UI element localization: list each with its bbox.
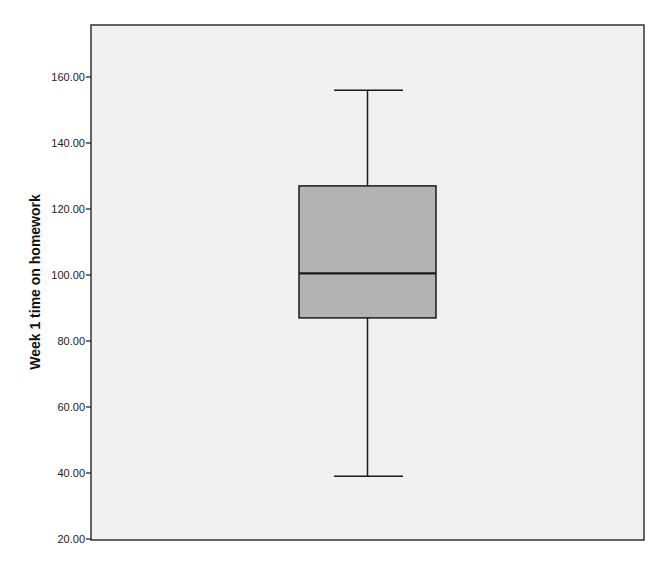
y-tick-label: 100.00: [51, 269, 85, 281]
y-tick-label: 160.00: [51, 71, 85, 83]
y-tick-label: 20.00: [57, 533, 85, 545]
y-axis-title: Week 1 time on homework: [27, 194, 43, 370]
y-tick-label: 80.00: [57, 335, 85, 347]
y-tick-label: 120.00: [51, 203, 85, 215]
boxplot-chart: 20.0040.0060.0080.00100.00120.00140.0016…: [0, 0, 669, 586]
y-tick-label: 60.00: [57, 401, 85, 413]
iqr-box: [299, 186, 436, 318]
y-axis: 20.0040.0060.0080.00100.00120.00140.0016…: [51, 71, 91, 545]
y-tick-label: 40.00: [57, 467, 85, 479]
y-tick-label: 140.00: [51, 137, 85, 149]
